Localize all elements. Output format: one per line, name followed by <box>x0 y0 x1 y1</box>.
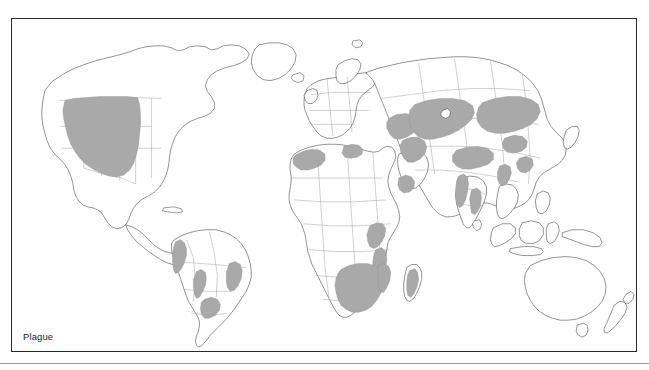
philippines-land <box>535 191 550 214</box>
world-map-graphic <box>12 19 636 351</box>
borneo-land <box>519 221 543 244</box>
endemic-southern-africa <box>335 264 384 313</box>
map-figure: Plague <box>11 18 637 352</box>
new-zealand-land <box>604 301 627 333</box>
cuba-land <box>163 207 183 213</box>
map-caption: Plague <box>23 331 53 342</box>
iceland-land <box>291 73 304 83</box>
sri-lanka-land <box>473 220 482 231</box>
southeast-asia-land <box>496 184 518 219</box>
greenland-land <box>251 43 296 81</box>
world-map-svg <box>12 19 636 351</box>
svalbard-land <box>352 40 363 48</box>
endemic-yemen-arabia <box>398 175 415 193</box>
tasmania-land <box>576 323 588 337</box>
footer-divider <box>0 363 649 364</box>
sumatra-land <box>490 224 515 247</box>
java-land <box>509 247 543 256</box>
new-guinea-land <box>562 230 602 247</box>
new-zealand-north-land <box>623 291 634 303</box>
australia-land <box>524 257 606 321</box>
japan-land <box>563 126 579 149</box>
landmass-group <box>42 40 634 347</box>
sulawesi-land <box>546 222 559 244</box>
page-root: Plague <box>0 0 649 370</box>
endemic-zambia-malawi <box>378 264 391 293</box>
